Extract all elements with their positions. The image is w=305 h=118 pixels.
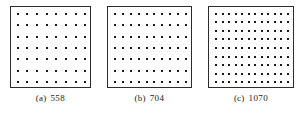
lattice-dot (267, 73, 269, 75)
lattice-dot (177, 81, 179, 83)
lattice-dot (36, 81, 38, 83)
lattice-dot (65, 58, 67, 60)
lattice-dot (130, 81, 132, 83)
lattice-dot (161, 58, 163, 60)
lattice-dot (130, 24, 132, 26)
lattice-dot (130, 36, 132, 38)
lattice-dot (261, 64, 263, 66)
lattice-dot (177, 58, 179, 60)
lattice-dot (287, 13, 289, 15)
lattice-dot (169, 36, 171, 38)
lattice-dot (65, 36, 67, 38)
lattice-dot (235, 64, 237, 66)
lattice-dot (254, 56, 256, 58)
dot-grid-b (108, 7, 191, 87)
lattice-dot (222, 56, 224, 58)
lattice-dot (46, 13, 48, 15)
lattice-dot (280, 30, 282, 32)
lattice-dot (267, 64, 269, 66)
lattice-dot (146, 36, 148, 38)
lattice-dot (26, 81, 28, 83)
lattice-dot (146, 13, 148, 15)
lattice-dot (75, 70, 77, 72)
lattice-dot (254, 64, 256, 66)
lattice-dot (84, 58, 86, 60)
lattice-dot (248, 64, 250, 66)
lattice-dot (185, 58, 187, 60)
lattice-dot (241, 21, 243, 23)
lattice-dot (215, 30, 217, 32)
lattice-dot (185, 13, 187, 15)
lattice-dot (228, 73, 230, 75)
lattice-dot (177, 70, 179, 72)
lattice-dot (287, 56, 289, 58)
lattice-dot (248, 30, 250, 32)
lattice-dot (228, 81, 230, 83)
lattice-dot (36, 24, 38, 26)
lattice-dot (55, 81, 57, 83)
lattice-dot (222, 38, 224, 40)
lattice-dot (75, 47, 77, 49)
lattice-dot (75, 13, 77, 15)
panel-count-c: 1070 (248, 93, 268, 103)
lattice-dot (17, 13, 19, 15)
lattice-dot (130, 47, 132, 49)
figure-container: (a)558 (b)704 (c)1070 (0, 0, 305, 118)
lattice-dot (185, 47, 187, 49)
lattice-dot (280, 64, 282, 66)
lattice-dot (114, 36, 116, 38)
dot-grid-c (209, 7, 293, 87)
lattice-dot (287, 73, 289, 75)
lattice-dot (26, 13, 28, 15)
lattice-dot (55, 13, 57, 15)
lattice-dot (26, 58, 28, 60)
lattice-dot (280, 47, 282, 49)
lattice-dot (84, 70, 86, 72)
lattice-dot (215, 81, 217, 83)
lattice-dot (228, 30, 230, 32)
lattice-dot (274, 30, 276, 32)
panel-box-b (107, 6, 192, 88)
lattice-dot (241, 56, 243, 58)
lattice-dot (267, 38, 269, 40)
lattice-dot (267, 47, 269, 49)
panel-group-b: (b)704 (107, 6, 192, 104)
lattice-dot (254, 13, 256, 15)
lattice-dot (46, 47, 48, 49)
lattice-dot (138, 47, 140, 49)
lattice-dot (153, 24, 155, 26)
lattice-dot (153, 70, 155, 72)
lattice-dot (153, 58, 155, 60)
lattice-dot (235, 13, 237, 15)
lattice-dot (169, 58, 171, 60)
lattice-dot (46, 36, 48, 38)
lattice-dot (274, 21, 276, 23)
lattice-dot (17, 47, 19, 49)
lattice-dot (138, 13, 140, 15)
lattice-dot (267, 81, 269, 83)
lattice-dot (75, 58, 77, 60)
lattice-dot (254, 47, 256, 49)
lattice-dot (55, 36, 57, 38)
lattice-dot (241, 47, 243, 49)
lattice-dot (261, 21, 263, 23)
lattice-dot (254, 21, 256, 23)
lattice-dot (261, 30, 263, 32)
lattice-dot (267, 13, 269, 15)
lattice-dot (267, 21, 269, 23)
lattice-dot (75, 81, 77, 83)
lattice-dot (185, 81, 187, 83)
lattice-dot (261, 38, 263, 40)
lattice-dot (84, 36, 86, 38)
lattice-dot (46, 81, 48, 83)
lattice-dot (153, 13, 155, 15)
lattice-dot (114, 58, 116, 60)
lattice-dot (215, 47, 217, 49)
lattice-dot (241, 38, 243, 40)
lattice-dot (65, 47, 67, 49)
lattice-dot (280, 56, 282, 58)
lattice-dot (161, 13, 163, 15)
lattice-dot (114, 47, 116, 49)
lattice-dot (267, 30, 269, 32)
lattice-dot (222, 47, 224, 49)
